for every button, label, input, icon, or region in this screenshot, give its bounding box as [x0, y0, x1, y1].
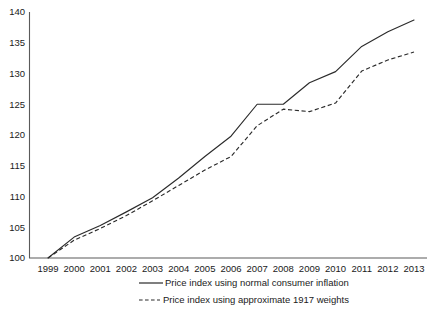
y-tick-label: 110: [10, 191, 25, 202]
legend-label: Price index using normal consumer inflat…: [165, 277, 349, 288]
y-tick-label: 100: [9, 252, 25, 263]
y-tick-label: 120: [9, 129, 25, 140]
x-tick-label: 2002: [116, 263, 137, 274]
y-tick-label: 130: [9, 68, 25, 79]
chart-figure: 100105110115120125130135140 199920002001…: [0, 0, 434, 313]
x-tick-label: 2003: [142, 263, 163, 274]
x-tick-label: 2005: [194, 263, 215, 274]
x-axis-tick-labels: 1999200020012002200320042005200620072008…: [37, 263, 424, 274]
y-tick-label: 105: [9, 222, 25, 233]
x-tick-label: 2013: [403, 263, 424, 274]
x-tick-label: 2001: [90, 263, 111, 274]
chart-axes: [30, 12, 428, 258]
x-tick-label: 2007: [247, 263, 268, 274]
y-tick-label: 125: [9, 99, 25, 110]
line-chart: 100105110115120125130135140 199920002001…: [0, 0, 434, 313]
chart-legend: Price index using normal consumer inflat…: [139, 277, 349, 305]
series-line-approximate-1917-weights: [48, 52, 414, 258]
x-tick-label: 2010: [325, 263, 346, 274]
x-tick-label: 2012: [377, 263, 398, 274]
x-tick-label: 2004: [168, 263, 189, 274]
x-tick-label: 1999: [37, 263, 58, 274]
x-tick-label: 2000: [64, 263, 85, 274]
x-tick-label: 2008: [273, 263, 294, 274]
series-line-normal-consumer-inflation: [48, 20, 414, 258]
y-tick-label: 115: [10, 160, 25, 171]
y-tick-label: 140: [9, 6, 25, 17]
y-axis-tick-labels: 100105110115120125130135140: [9, 6, 25, 263]
y-tick-label: 135: [9, 37, 25, 48]
x-tick-label: 2011: [351, 263, 371, 274]
x-tick-label: 2009: [299, 263, 320, 274]
legend-label: Price index using approximate 1917 weigh…: [163, 294, 349, 305]
x-tick-label: 2006: [220, 263, 241, 274]
